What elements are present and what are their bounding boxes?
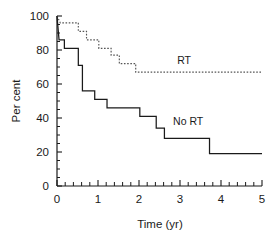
x-tick-label: 0	[54, 193, 60, 205]
x-tick-label: 3	[177, 193, 183, 205]
y-axis-tick-labels: 020406080100	[30, 10, 49, 192]
series-annotations: RTNo RT	[173, 54, 204, 127]
y-tick-label: 0	[43, 180, 49, 192]
series-curves	[57, 16, 262, 154]
series-label-no-rt: No RT	[173, 115, 204, 127]
y-tick-label: 40	[36, 112, 49, 124]
y-tick-label: 60	[36, 78, 49, 90]
x-axis-major-ticks	[57, 180, 262, 186]
x-axis-tick-labels: 012345	[54, 193, 265, 205]
series-curve-rt	[57, 16, 262, 72]
y-tick-label: 100	[30, 10, 49, 22]
series-label-rt: RT	[177, 54, 191, 66]
x-axis-title: Time (yr)	[137, 218, 183, 230]
y-axis-title: Per cent	[10, 79, 22, 123]
y-tick-label: 80	[36, 44, 49, 56]
chart-plot-area: 020406080100 012345 RTNo RT Per cent Tim…	[0, 0, 270, 233]
series-curve-no-rt	[57, 16, 262, 154]
kaplan-meier-chart: 020406080100 012345 RTNo RT Per cent Tim…	[0, 0, 270, 233]
y-tick-label: 20	[36, 146, 49, 158]
x-tick-label: 1	[95, 193, 101, 205]
x-tick-label: 2	[136, 193, 142, 205]
x-tick-label: 4	[218, 193, 225, 205]
x-tick-label: 5	[259, 193, 265, 205]
